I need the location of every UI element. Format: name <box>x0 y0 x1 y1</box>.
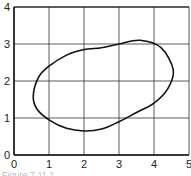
y-tick-label: 0 <box>4 149 10 161</box>
figure-caption: Figure 7.11.1 <box>2 170 54 176</box>
x-tick-label: 1 <box>46 158 52 170</box>
x-tick-labels: 012345 <box>11 158 191 170</box>
closed-curve <box>33 40 173 131</box>
x-tick-label: 3 <box>116 158 122 170</box>
y-tick-label: 4 <box>4 1 10 13</box>
y-tick-label: 1 <box>4 112 10 124</box>
x-tick-label: 4 <box>151 158 157 170</box>
grid-lines <box>14 7 189 155</box>
x-tick-label: 5 <box>186 158 191 170</box>
y-tick-label: 3 <box>4 38 10 50</box>
x-tick-label: 2 <box>81 158 87 170</box>
x-tick-label: 0 <box>11 158 17 170</box>
y-tick-label: 2 <box>4 75 10 87</box>
chart-plot: 012345 01234 Figure 7.11.1 <box>0 0 191 176</box>
y-tick-labels: 01234 <box>4 1 10 161</box>
